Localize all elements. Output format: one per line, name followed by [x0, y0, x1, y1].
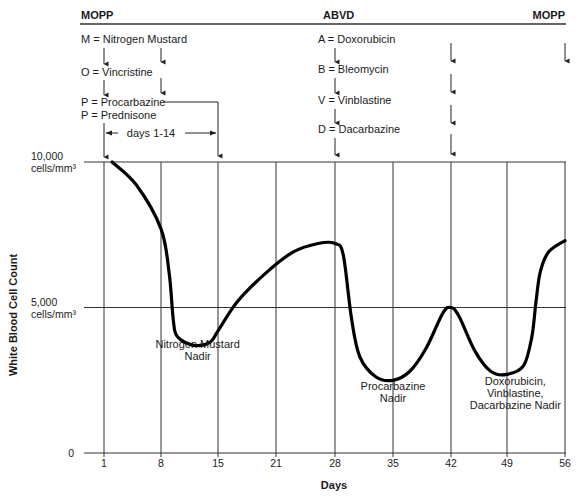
mopp-drug-list: M = Nitrogen Mustard O = Vincristine P =… — [81, 33, 187, 121]
y-tick-unit: cells/mm³ — [31, 308, 76, 320]
x-tick-label: 56 — [559, 457, 571, 469]
drug-label-vinblastine: V = Vinblastine — [318, 94, 392, 106]
drug-label-prednisone: P = Prednisone — [81, 109, 156, 121]
drug-label-vincristine: O = Vincristine — [81, 66, 153, 78]
y-tick-label: 10,000 — [31, 150, 63, 162]
chart-grid — [84, 162, 566, 457]
nadir-annotation-line: Vinblastine, — [487, 387, 544, 399]
drug-label-bleomycin: B = Bleomycin — [318, 63, 389, 75]
regimen-header: MOPP ABVD MOPP — [80, 9, 566, 24]
x-tick-label: 49 — [501, 457, 513, 469]
x-tick-label: 15 — [212, 457, 224, 469]
regimen-label-mopp: MOPP — [81, 9, 113, 21]
wbc-chart: MOPP ABVD MOPP M = Nitrogen Mustard O = … — [0, 0, 578, 499]
x-tick-label: 1 — [101, 457, 107, 469]
y-axis-tick-labels: 05,000cells/mm³10,000cells/mm³ — [31, 150, 76, 459]
y-tick-unit: cells/mm³ — [31, 162, 76, 174]
drug-label-dacarbazine: D = Dacarbazine — [318, 123, 400, 135]
x-tick-label: 21 — [270, 457, 282, 469]
nadir-annotation-line: Dacarbazine Nadir — [470, 399, 561, 411]
y-axis-title: White Blood Cell Count — [7, 254, 19, 377]
drug-label-procarbazine: P = Procarbazine — [81, 96, 166, 108]
y-tick-label: 0 — [68, 447, 74, 459]
x-axis-title: Days — [321, 479, 347, 491]
x-tick-label: 28 — [329, 457, 341, 469]
nadir-annotation-line: Nadir — [184, 350, 211, 362]
abvd-drug-list: A = Doxorubicin B = Bleomycin V = Vinbla… — [318, 33, 400, 135]
x-tick-label: 35 — [387, 457, 399, 469]
nadir-annotation-line: Nitrogen Mustard — [155, 338, 239, 350]
y-tick-label: 5,000 — [31, 296, 57, 308]
nadir-annotation-line: Nadir — [380, 392, 407, 404]
drug-label-nitrogen-mustard: M = Nitrogen Mustard — [81, 33, 187, 45]
x-tick-label: 8 — [158, 457, 164, 469]
days-range-label: days 1-14 — [127, 127, 175, 139]
nadir-annotation-line: Procarbazine — [361, 380, 426, 392]
drug-label-doxorubicin: A = Doxorubicin — [318, 33, 395, 45]
x-tick-label: 42 — [445, 457, 457, 469]
regimen-label-mopp-next: MOPP — [533, 9, 565, 21]
x-axis-tick-labels: 1815212835424956 — [101, 457, 571, 469]
regimen-label-abvd: ABVD — [323, 9, 354, 21]
nadir-annotation-line: Doxorubicin, — [485, 375, 546, 387]
